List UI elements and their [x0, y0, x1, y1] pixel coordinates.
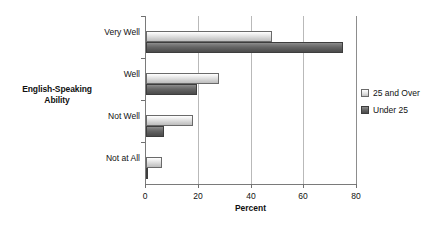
legend-swatch-icon-under-25	[361, 106, 369, 114]
y-axis-title: English-Speaking Ability	[8, 84, 106, 106]
x-tick-label-60: 60	[288, 191, 318, 201]
y-tick-3	[141, 142, 145, 143]
x-tick-label-80: 80	[341, 191, 371, 201]
bar-well-25-and-over	[146, 73, 219, 84]
bar-not-well-25-and-over	[146, 115, 193, 126]
legend-label-25-and-over: 25 and Over	[373, 88, 420, 98]
gridline-80	[356, 16, 357, 184]
bar-well-under-25	[146, 84, 197, 95]
x-tick-20	[198, 184, 199, 188]
legend-item-25-and-over[interactable]: 25 and Over	[361, 86, 420, 100]
x-axis-title: Percent	[145, 203, 356, 213]
bar-not-at-all-under-25	[146, 168, 148, 179]
y-tick-2	[141, 100, 145, 101]
x-tick-80	[356, 184, 357, 188]
category-label-not-at-all: Not at All	[56, 153, 140, 163]
bar-very-well-25-and-over	[146, 31, 272, 42]
y-axis-title-line-1: English-Speaking	[8, 84, 106, 95]
x-tick-0	[145, 184, 146, 188]
category-label-very-well: Very Well	[56, 27, 140, 37]
x-tick-40	[251, 184, 252, 188]
category-label-not-well: Not Well	[56, 111, 140, 121]
y-axis-title-line-2: Ability	[8, 95, 106, 106]
plot-area: 0 20 40 60 80	[145, 16, 356, 184]
bar-not-at-all-25-and-over	[146, 157, 162, 168]
x-tick-label-0: 0	[130, 191, 160, 201]
x-tick-label-40: 40	[236, 191, 266, 201]
bar-not-well-under-25	[146, 126, 164, 137]
legend: 25 and Over Under 25	[361, 86, 420, 120]
x-tick-label-20: 20	[183, 191, 213, 201]
legend-label-under-25: Under 25	[373, 105, 408, 115]
x-tick-60	[303, 184, 304, 188]
legend-swatch-icon-25-and-over	[361, 89, 369, 97]
category-label-well: Well	[56, 69, 140, 79]
y-tick-1	[141, 58, 145, 59]
y-tick-top	[141, 16, 145, 17]
legend-item-under-25[interactable]: Under 25	[361, 103, 420, 117]
bar-chart: English-Speaking Ability Very Well Well …	[0, 0, 446, 237]
bar-very-well-under-25	[146, 42, 343, 53]
